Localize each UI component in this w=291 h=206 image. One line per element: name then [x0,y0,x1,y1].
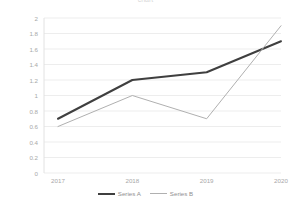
x-axis-tick-label: 2020 [261,177,291,184]
chart-legend: Series A Series B [0,190,291,197]
x-axis-tick-label: 2018 [112,177,152,184]
y-axis-tick-label: 0.4 [16,139,38,146]
legend-item-series-b[interactable]: Series B [150,190,193,197]
legend-swatch-series-a [98,193,115,195]
legend-label-series-b: Series B [170,190,193,197]
legend-label-series-a: Series A [118,190,141,197]
y-axis-tick-label: 0.6 [16,123,38,130]
x-axis-tick-label: 2019 [187,177,227,184]
x-axis-tick-label: 2017 [38,177,78,184]
y-axis-tick-label: 0.8 [16,108,38,115]
y-axis-tick-label: 1.2 [16,77,38,84]
y-axis-tick-label: 0 [16,170,38,177]
y-axis-tick-label: 1.4 [16,61,38,68]
y-axis-tick-label: 2 [16,15,38,22]
chart-plot-area [0,0,291,206]
line-chart: chart 21.81.61.41.210.80.60.40.20 201720… [0,0,291,206]
y-axis-tick-label: 0.2 [16,154,38,161]
y-axis-tick-label: 1.8 [16,30,38,37]
legend-item-series-a[interactable]: Series A [98,190,141,197]
legend-swatch-series-b [150,193,167,194]
y-axis-tick-label: 1 [16,92,38,99]
gridlines [44,18,281,173]
y-axis-tick-label: 1.6 [16,46,38,53]
